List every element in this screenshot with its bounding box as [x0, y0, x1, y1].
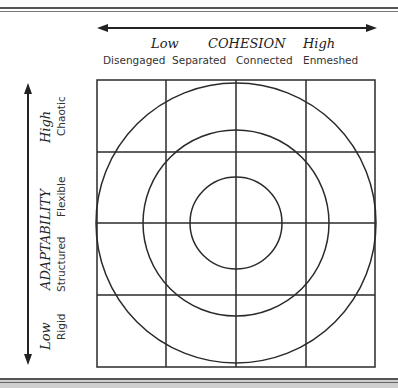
- cohesion-level-enmeshed: Enmeshed: [303, 54, 358, 66]
- adaptability-high-label: High: [38, 111, 53, 143]
- bottom-rule: [0, 378, 398, 388]
- cohesion-title: COHESION: [208, 36, 286, 51]
- adaptability-level-chaotic: Chaotic: [55, 96, 67, 136]
- cohesion-level-separated: Separated: [172, 54, 226, 66]
- cohesion-high-label: High: [303, 36, 335, 51]
- adaptability-title: ADAPTABILITY: [38, 189, 53, 290]
- cohesion-low-label: Low: [151, 36, 179, 51]
- adaptability-level-rigid: Rigid: [55, 314, 67, 340]
- adaptability-level-flexible: Flexible: [55, 177, 67, 217]
- cohesion-arrow: [97, 24, 377, 32]
- adaptability-level-structured: Structured: [55, 236, 67, 292]
- cohesion-level-disengaged: Disengaged: [103, 54, 165, 66]
- cohesion-level-connected: Connected: [236, 54, 293, 66]
- adaptability-low-label: Low: [38, 322, 53, 350]
- adaptability-arrow: [24, 83, 32, 365]
